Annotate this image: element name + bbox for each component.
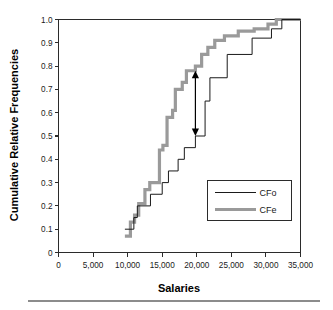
y-axis-title: Cumulative Relative Frequencies [8, 49, 20, 221]
y-tick-label: 0.4 [41, 155, 53, 164]
chart-figure: 00.10.20.30.40.50.60.70.80.91.0 05,00010… [0, 0, 333, 310]
chart-legend: CFoCFe [208, 181, 292, 221]
x-tick-label: 25,000 [219, 261, 244, 270]
legend-label-cfo: CFo [260, 188, 277, 198]
legend-box [208, 181, 292, 221]
cumulative-frequency-chart: 00.10.20.30.40.50.60.70.80.91.0 05,00010… [0, 0, 333, 310]
y-tick-label: 0.6 [41, 109, 53, 118]
y-tick-label: 0.8 [41, 62, 53, 71]
x-tick-label: 35,000 [288, 261, 313, 270]
y-tick-label: 0.2 [41, 202, 53, 211]
y-tick-label: 1.0 [41, 16, 53, 25]
x-tick-label: 30,000 [253, 261, 278, 270]
x-tick-label: 20,000 [184, 261, 209, 270]
y-tick-label: 0.9 [41, 39, 53, 48]
x-tick-label: 5,000 [83, 261, 104, 270]
y-tick-label: 0.5 [41, 132, 53, 141]
x-axis-title: Salaries [158, 282, 200, 294]
legend-label-cfe: CFe [260, 205, 277, 215]
x-tick-label: 15,000 [150, 261, 175, 270]
y-tick-label: 0 [48, 249, 53, 258]
x-tick-label: 10,000 [115, 261, 140, 270]
x-tick-label: 0 [56, 261, 61, 270]
y-tick-label: 0.3 [41, 179, 53, 188]
y-tick-label: 0.7 [41, 85, 53, 94]
y-tick-label: 0.1 [41, 225, 53, 234]
